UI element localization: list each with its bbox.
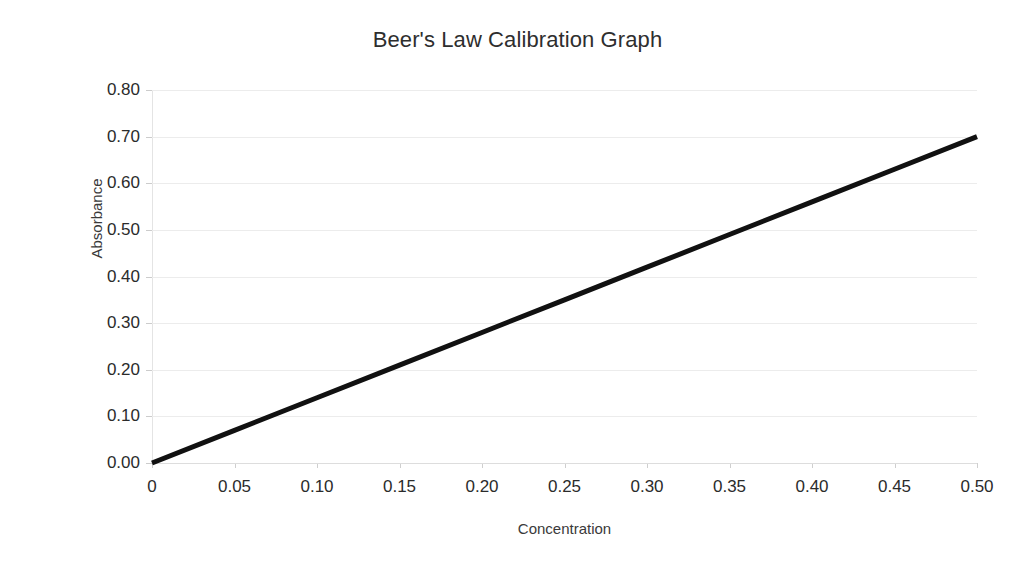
y-axis-tick-label: 0.50 xyxy=(0,221,140,238)
x-axis-title: Concentration xyxy=(152,520,977,537)
chart-container: Beer's Law Calibration Graph Absorbance … xyxy=(0,0,1035,568)
data-series-line xyxy=(152,137,977,463)
y-axis-tick-label: 0.00 xyxy=(0,454,140,471)
gridline xyxy=(152,463,977,464)
y-axis-tick-label: 0.60 xyxy=(0,174,140,191)
y-axis-tick-label: 0.40 xyxy=(0,268,140,285)
y-axis-tick-label: 0.70 xyxy=(0,128,140,145)
plot-area xyxy=(152,90,977,463)
x-axis-tick-label: 0.50 xyxy=(917,478,1035,495)
y-axis-tick-label: 0.20 xyxy=(0,361,140,378)
y-axis-tick-label: 0.80 xyxy=(0,81,140,98)
y-axis-tick-label: 0.30 xyxy=(0,314,140,331)
series-layer xyxy=(152,90,977,463)
chart-title: Beer's Law Calibration Graph xyxy=(0,27,1035,53)
x-axis-tick xyxy=(977,463,978,468)
y-axis-tick-label: 0.10 xyxy=(0,407,140,424)
